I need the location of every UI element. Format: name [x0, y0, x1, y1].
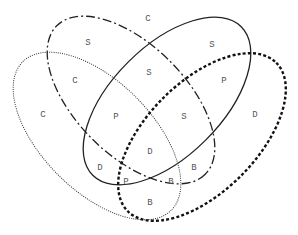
- region-label: S: [181, 112, 186, 122]
- region-label: B: [191, 163, 197, 173]
- region-label: P: [221, 76, 226, 86]
- region-label: P: [113, 112, 118, 122]
- region-label: C: [145, 14, 151, 24]
- set-ellipse-dashdot: [18, 0, 244, 213]
- region-label: B: [147, 198, 153, 208]
- region-label: S: [146, 68, 151, 78]
- region-label: P: [123, 177, 128, 187]
- region-label: D: [147, 147, 152, 157]
- venn-diagram: CSSCSPCPSDDDBPBB: [0, 0, 298, 235]
- region-label: S: [85, 38, 90, 48]
- region-label: D: [97, 163, 102, 173]
- region-label: B: [168, 177, 174, 187]
- region-label: S: [209, 40, 214, 50]
- set-ellipse-dotted: [0, 23, 210, 235]
- region-label: C: [72, 76, 78, 86]
- set-ellipse-thickdot: [89, 24, 298, 235]
- set-ellipse-solid: [54, 0, 280, 214]
- region-label: D: [252, 110, 257, 120]
- region-label: C: [40, 110, 46, 120]
